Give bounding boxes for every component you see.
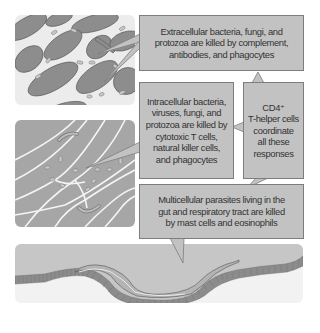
gut-worm-illustration (15, 244, 303, 303)
callout-line: Multicellular parasites living in the (158, 194, 285, 206)
callout-line: cytotoxic T cells, (146, 131, 227, 143)
intracellular-cells-illustration (15, 120, 135, 227)
callout-line: Intracellular bacteria, (146, 96, 227, 108)
callout-line: Extracellular bacteria, fungi, and (155, 26, 289, 38)
callout-line: and phagocytes (146, 154, 227, 166)
callout-line: T-helper cells (248, 113, 299, 125)
callout-line: by mast cells and eosinophils (158, 217, 285, 229)
callout-cd4-t-helper-cells: CD4⁺ T-helper cells coordinate all these… (243, 82, 304, 179)
callout-line: gut and respiratory tract are killed (158, 206, 285, 218)
callout-line: antibodies, and phagocytes (155, 49, 289, 61)
extracellular-space-illustration (15, 15, 135, 105)
callout-line: all these (248, 136, 299, 148)
callout-line: coordinate (248, 125, 299, 137)
callout-intracellular-pathogens: Intracellular bacteria, viruses, fungi, … (139, 82, 234, 179)
callout-line: protozoa are killed by complement, (155, 37, 289, 49)
callout-line: natural killer cells, (146, 142, 227, 154)
callout-line: responses (248, 148, 299, 160)
callout-multicellular-parasites: Multicellular parasites living in the gu… (139, 184, 304, 239)
callout-line: CD4⁺ (248, 102, 299, 114)
callout-line: viruses, fungi, and (146, 107, 227, 119)
callout-line: protozoa are killed by (146, 119, 227, 131)
callout-extracellular-pathogens: Extracellular bacteria, fungi, and proto… (139, 15, 304, 71)
